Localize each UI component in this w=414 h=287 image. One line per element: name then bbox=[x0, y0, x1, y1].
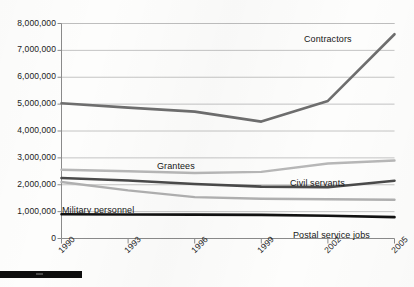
series-label-grantees: Grantees bbox=[157, 161, 195, 171]
scan-artifact-nick bbox=[36, 273, 43, 275]
line-chart-figure: 8,000,0007,000,0006,000,0005,000,0004,00… bbox=[0, 0, 414, 287]
series-label-military-personnel: Military personnel bbox=[62, 205, 134, 215]
series-line-contractors bbox=[62, 34, 395, 121]
series-label-postal-service-jobs: Postal service jobs bbox=[293, 230, 370, 240]
series-line-grantees bbox=[62, 161, 395, 173]
series-label-civil-servants: Civil servants bbox=[290, 178, 345, 188]
series-label-contractors: Contractors bbox=[304, 34, 352, 44]
